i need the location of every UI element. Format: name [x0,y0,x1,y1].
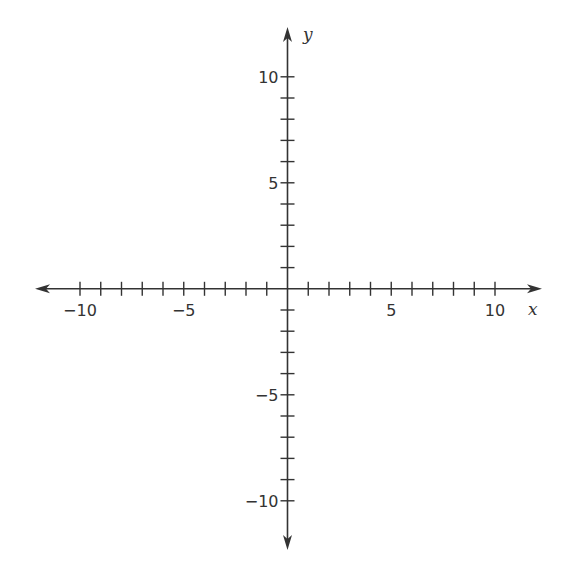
y-tick-label: 10 [258,68,278,87]
x-axis-label: x [528,299,538,319]
axes [35,27,542,550]
x-tick-label: −5 [172,301,196,320]
coordinate-plane: −10−5510105−5−10 x y [0,0,567,575]
y-tick-label: −10 [245,492,279,511]
x-tick-label: 5 [386,301,396,320]
y-tick-label: 5 [268,174,278,193]
x-tick-label: 10 [485,301,505,320]
x-tick-label: −10 [63,301,97,320]
y-tick-label: −5 [255,386,279,405]
y-axis-label: y [302,24,313,44]
